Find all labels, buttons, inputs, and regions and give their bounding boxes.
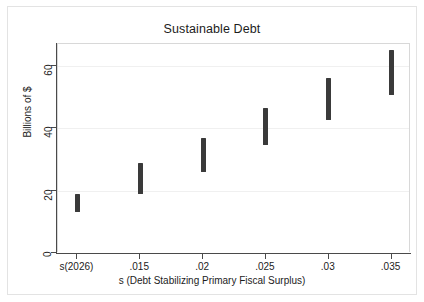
gridline <box>58 66 409 67</box>
x-axis-tick-label: .025 <box>255 261 274 272</box>
x-axis-tick <box>328 254 329 259</box>
plot-region <box>57 43 410 252</box>
y-axis-tick-label-container: 0 <box>22 246 48 258</box>
x-axis-tick <box>139 254 140 259</box>
data-bar <box>75 194 80 213</box>
chart-title: Sustainable Debt <box>0 22 424 36</box>
x-axis-tick-label: .015 <box>130 261 149 272</box>
x-axis-tick-label: .035 <box>381 261 400 272</box>
x-axis-tick-label: s(2026) <box>59 261 93 272</box>
gridline <box>58 128 409 129</box>
x-axis-tick <box>76 254 77 259</box>
x-axis-tick <box>265 254 266 259</box>
plot-inner-area <box>58 44 409 252</box>
data-bar <box>389 50 394 95</box>
chart-figure: Sustainable Debt 0204060 Billions of $ s… <box>0 0 424 302</box>
data-bar <box>263 108 268 145</box>
y-axis-title: Billions of $ <box>22 86 33 137</box>
x-axis-title: s (Debt Stabilizing Primary Fiscal Surpl… <box>0 275 424 286</box>
gridline <box>58 191 409 192</box>
y-axis-tick-label: 20 <box>43 189 54 200</box>
y-axis-title-container: Billions of $ <box>17 52 31 172</box>
y-axis-tick-label: 0 <box>43 252 54 258</box>
data-bar <box>138 163 143 194</box>
x-axis-line <box>56 253 411 254</box>
data-bar <box>201 138 206 172</box>
y-axis-tick-label-container: 20 <box>22 184 48 196</box>
y-axis-tick-label: 60 <box>43 64 54 75</box>
x-axis-tick <box>391 254 392 259</box>
y-axis-tick-label: 40 <box>43 127 54 138</box>
x-axis-tick-label: .03 <box>321 261 335 272</box>
y-axis-line <box>56 43 57 253</box>
data-bar <box>326 78 331 120</box>
x-axis-tick-label: .02 <box>195 261 209 272</box>
x-axis-tick <box>202 254 203 259</box>
